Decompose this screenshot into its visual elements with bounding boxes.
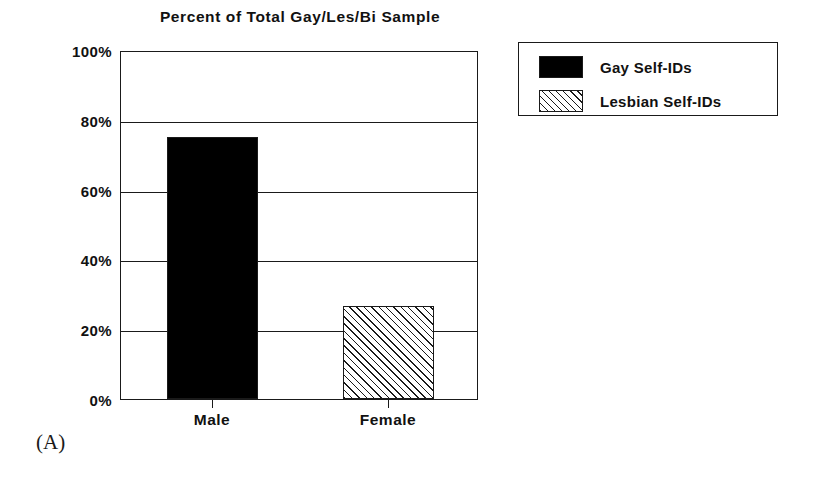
y-tick-label-100: 100% [40, 43, 112, 60]
legend-swatch-solid-icon [539, 56, 583, 78]
figure-panel-a: Percent of Total Gay/Les/Bi Sample 100% … [0, 0, 825, 485]
x-tick-male [212, 400, 213, 408]
gridline-80 [121, 122, 477, 123]
legend-swatch-hatched-icon [539, 90, 583, 112]
y-tick-label-20: 20% [40, 322, 112, 339]
legend-item-gay-self-ids: Gay Self-IDs [539, 55, 692, 79]
x-tick-female [388, 400, 389, 408]
chart-title: Percent of Total Gay/Les/Bi Sample [120, 8, 480, 26]
y-tick-label-0: 0% [40, 392, 112, 409]
x-axis-label-female: Female [318, 411, 458, 429]
panel-letter: (A) [36, 430, 65, 455]
bar-male-gay-self-ids [167, 137, 258, 399]
bar-female-lesbian-self-ids [343, 306, 434, 399]
legend-label-lesbian-self-ids: Lesbian Self-IDs [600, 93, 722, 110]
legend: Gay Self-IDs Lesbian Self-IDs [518, 42, 778, 116]
legend-item-lesbian-self-ids: Lesbian Self-IDs [539, 89, 722, 113]
y-tick-label-40: 40% [40, 252, 112, 269]
y-axis-labels: 100% 80% 60% 40% 20% 0% [32, 51, 112, 400]
plot-area [120, 51, 478, 400]
y-tick-label-60: 60% [40, 182, 112, 199]
x-axis-label-male: Male [142, 411, 282, 429]
legend-label-gay-self-ids: Gay Self-IDs [600, 59, 692, 76]
y-tick-label-80: 80% [40, 112, 112, 129]
